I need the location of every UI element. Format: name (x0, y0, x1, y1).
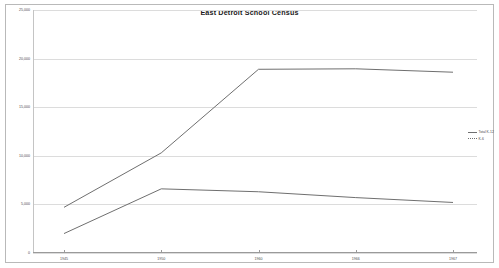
series-lines (33, 10, 477, 253)
legend-swatch (468, 137, 477, 140)
y-axis-tick-label: 20,000 (19, 57, 30, 61)
chart-legend: Total K-12K-6 (468, 130, 496, 143)
chart-container: East Detroit School Census 05,00010,0001… (0, 0, 499, 268)
series-line (64, 69, 453, 208)
plot-area: 05,00010,00015,00020,00025,000 194519501… (33, 10, 477, 253)
y-axis-tick-label: 25,000 (19, 8, 30, 12)
x-axis-tick-label: 1967 (449, 257, 457, 261)
legend-label: K-6 (479, 137, 484, 141)
gridline (33, 253, 477, 254)
x-axis-tick-label: 1966 (352, 257, 360, 261)
legend-item: Total K-12 (468, 130, 496, 134)
x-axis-tick-label: 1950 (157, 257, 165, 261)
y-axis-tick-label: 15,000 (19, 105, 30, 109)
legend-label: Total K-12 (479, 130, 494, 134)
legend-swatch (468, 131, 477, 134)
x-axis-tick-label: 1945 (60, 257, 68, 261)
legend-item: K-6 (468, 137, 496, 141)
x-axis-tick-label: 1960 (255, 257, 263, 261)
y-axis-tick-label: 0 (28, 251, 30, 255)
series-line (64, 189, 453, 234)
y-axis-tick-label: 5,000 (21, 202, 30, 206)
y-axis-tick-label: 10,000 (19, 154, 30, 158)
